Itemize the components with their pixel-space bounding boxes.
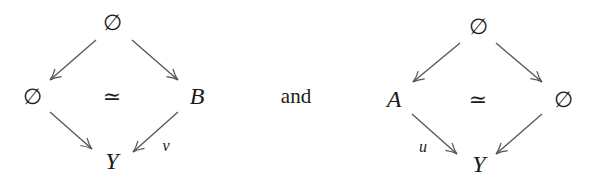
node-top: ∅: [103, 10, 122, 35]
node-top: ∅: [469, 14, 488, 39]
center-symbol: ≃: [469, 87, 487, 112]
node-left: A: [387, 86, 402, 113]
arrow-top-to-right: [132, 40, 178, 80]
node-right: B: [190, 83, 205, 110]
arrow-label-u: u: [419, 138, 427, 156]
arrow-right-to-bottom: [496, 114, 542, 154]
arrow-top-to-left: [50, 40, 96, 80]
arrow-top-to-right: [496, 43, 542, 82]
node-bottom: Y: [472, 151, 485, 178]
arrow-left-to-bottom: [50, 112, 92, 149]
arrow-right-to-bottom: [133, 112, 178, 152]
conjunction-text: and: [281, 84, 311, 109]
arrow-top-to-left: [413, 43, 460, 82]
center-symbol: ≃: [103, 84, 121, 109]
node-right: ∅: [554, 87, 573, 112]
arrow-label-v: v: [162, 137, 169, 155]
node-bottom: Y: [105, 148, 118, 175]
node-left: ∅: [23, 84, 42, 109]
